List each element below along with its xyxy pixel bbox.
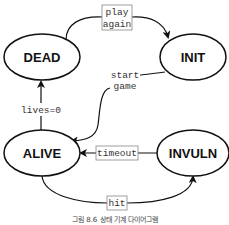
label-play-again: play again bbox=[102, 5, 132, 30]
label-lives-zero: lives=0 bbox=[21, 105, 61, 116]
state-init-label: INIT bbox=[181, 50, 206, 65]
state-invuln-label: INVULN bbox=[169, 146, 217, 161]
label-hit: hit bbox=[107, 196, 127, 210]
svg-text:timeout: timeout bbox=[97, 148, 137, 159]
figure-caption: 그림 8.6 상태 기계 다이어그램 bbox=[72, 215, 158, 224]
state-dead: DEAD bbox=[4, 34, 80, 80]
label-start-game: start game bbox=[111, 70, 140, 92]
svg-text:play: play bbox=[106, 7, 129, 18]
state-alive: ALIVE bbox=[4, 130, 80, 176]
state-dead-label: DEAD bbox=[24, 50, 61, 65]
label-timeout: timeout bbox=[96, 146, 138, 160]
state-alive-label: ALIVE bbox=[23, 146, 62, 161]
state-diagram: DEAD INIT ALIVE INVULN play again start … bbox=[0, 0, 229, 225]
state-invuln: INVULN bbox=[157, 130, 229, 176]
svg-text:lives=0: lives=0 bbox=[21, 105, 61, 116]
state-init: INIT bbox=[160, 34, 226, 80]
svg-text:again: again bbox=[103, 19, 132, 30]
svg-text:start: start bbox=[111, 70, 140, 81]
svg-text:hit: hit bbox=[108, 198, 125, 209]
svg-text:game: game bbox=[114, 81, 137, 92]
